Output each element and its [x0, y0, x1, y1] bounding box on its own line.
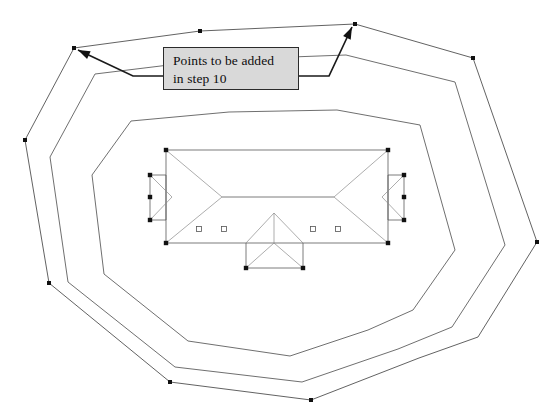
hip-line — [166, 150, 222, 197]
roof-corner-marker — [148, 195, 152, 199]
gable-roof-edge — [274, 213, 303, 243]
contour-vertex-marker — [23, 138, 27, 142]
drawing-canvas: Points to be added in step 10 — [0, 0, 558, 420]
roof-corner-marker — [402, 173, 406, 177]
front-gable-roof-edges — [246, 213, 303, 268]
roof-corner-marker — [164, 241, 168, 245]
right-wing-notch — [382, 175, 404, 220]
roof-corner-markers-group — [148, 148, 406, 270]
contour-vertex-marker — [471, 56, 475, 60]
contour-vertex-marker — [47, 281, 51, 285]
middle-contour — [50, 55, 505, 382]
roof-corner-marker — [386, 241, 390, 245]
roof-corner-marker — [402, 195, 406, 199]
hip-line — [166, 197, 222, 243]
leader-to-left-vertex-arrowhead — [78, 50, 91, 59]
contour-vertex-marker — [72, 46, 76, 50]
contour-vertex-marker — [309, 398, 313, 402]
skylight-markers-group — [197, 227, 341, 232]
skylight-3 — [311, 227, 316, 232]
points-callout-box: Points to be added in step 10 — [163, 47, 299, 90]
points-callout-text: Points to be added in step 10 — [173, 52, 290, 88]
contour-vertex-marker — [535, 240, 539, 244]
contour-vertex-marker — [198, 29, 202, 33]
skylight-4 — [336, 227, 341, 232]
leader-to-right-vertex-arrowhead — [343, 27, 352, 40]
roof-corner-marker — [386, 148, 390, 152]
left-wing-notch — [150, 175, 172, 220]
gable-roof-edge — [246, 243, 274, 268]
roof-corner-marker — [148, 218, 152, 222]
gable-roof-edge — [274, 243, 303, 268]
contour-vertex-marker — [353, 22, 357, 26]
left-wing-outline — [150, 175, 166, 220]
roof-corner-marker — [148, 173, 152, 177]
roof-corner-marker — [301, 266, 305, 270]
skylight-2 — [222, 227, 227, 232]
contour-vertex-marker — [168, 380, 172, 384]
roof-corner-marker — [402, 218, 406, 222]
leader-to-right-vertex — [299, 27, 352, 76]
roof-corner-marker — [164, 148, 168, 152]
roof-plan-group — [148, 148, 406, 270]
skylight-1 — [197, 227, 202, 232]
gable-roof-edge — [246, 213, 274, 243]
inner-contour — [92, 110, 455, 356]
hip-line — [334, 150, 388, 197]
front-gable-outline — [246, 243, 303, 268]
hip-line — [334, 197, 388, 243]
roof-corner-marker — [244, 266, 248, 270]
leader-to-left-vertex — [78, 50, 163, 76]
right-wing-outline — [388, 175, 404, 220]
